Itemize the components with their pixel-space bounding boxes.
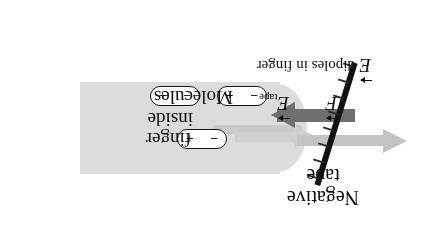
vector-symbol-f: F	[325, 93, 337, 114]
field-arrow-finger	[235, 132, 295, 142]
label-molecules: Molecules	[154, 87, 233, 108]
vector-label-e-tape: Etape	[259, 92, 289, 114]
field-arrow-tape-shaft	[297, 135, 385, 146]
label-negative-tape-line1: Negative	[263, 187, 383, 209]
label-negative-tape-line2: tape	[263, 165, 383, 187]
dipole-negative-sign: −	[250, 90, 258, 103]
vector-label-e-dipoles: E	[359, 54, 371, 76]
label-inside: inside	[148, 109, 193, 130]
label-negative-tape: Negative tape	[263, 165, 383, 209]
dipole-negative-sign: −	[210, 133, 218, 146]
vector-symbol-e: E	[277, 93, 289, 114]
physics-figure: − + − + − + Molecules inside finger	[0, 0, 445, 226]
vector-label-f: F	[325, 92, 337, 114]
figure-rotated-canvas: − + − + − + Molecules inside finger	[0, 0, 445, 226]
vector-symbol-e: E	[359, 55, 371, 76]
label-dipoles-in-finger: dipoles in finger	[257, 57, 355, 74]
field-arrow-tape-head	[383, 129, 407, 153]
vector-subscript-tape: tape	[259, 92, 277, 104]
label-finger: finger	[146, 129, 191, 150]
